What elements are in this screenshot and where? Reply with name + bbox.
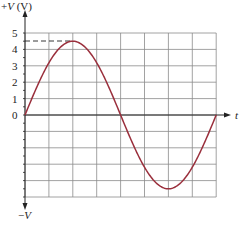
y-axis-label: +V (V) (1, 0, 32, 13)
y-tick-label: 5 (12, 27, 18, 39)
y-axis-ticks (23, 33, 25, 197)
y-tick-label: 4 (12, 43, 18, 55)
sine-wave-chart: +V (V) 543210 t −V (0, 0, 246, 229)
y-tick-labels: 543210 (12, 27, 18, 121)
y-axis-negative-label: −V (18, 209, 32, 221)
x-axis-label: t (235, 109, 239, 121)
y-tick-label: 1 (12, 93, 18, 105)
y-tick-label: 2 (12, 76, 18, 88)
y-tick-label: 0 (12, 109, 18, 121)
y-tick-label: 3 (12, 60, 18, 72)
x-axis-arrow-icon (224, 113, 231, 118)
